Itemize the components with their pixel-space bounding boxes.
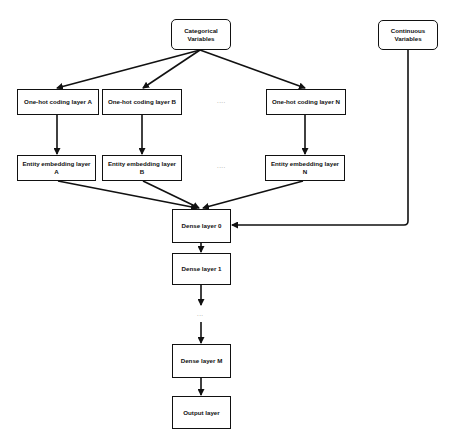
node-label: Dense layer 1 (182, 265, 222, 273)
edge-categorical-onehot-b (143, 50, 200, 88)
edge-continuous-dense-0 (232, 50, 408, 225)
node-label: Variables (394, 35, 421, 42)
node-label: Entity embedding layer N (268, 160, 342, 176)
edge-embed-a-dense-0 (58, 181, 197, 208)
node-onehot-layer-n: One-hot coding layer N (266, 89, 346, 115)
node-dense-layer-1: Dense layer 1 (172, 253, 231, 285)
node-embedding-layer-a: Entity embedding layer A (17, 155, 96, 181)
ellipsis-onehot-row: .... (217, 98, 226, 104)
node-output-layer: Output layer (172, 396, 231, 429)
node-label: Categorical (184, 27, 218, 34)
node-label: Dense layer M (181, 357, 223, 365)
edge-embed-n-dense-0 (203, 181, 303, 208)
ellipsis-embedding-row: .... (217, 163, 226, 169)
node-label: One-hot coding layer N (272, 98, 340, 106)
node-continuous-variables: ContinuousVariables (378, 20, 438, 50)
node-label: Dense layer 0 (182, 222, 222, 230)
node-embedding-layer-b: Entity embedding layer B (102, 155, 182, 181)
node-onehot-layer-b: One-hot coding layer B (102, 89, 182, 115)
node-label: One-hot coding layer A (24, 98, 92, 106)
edge-categorical-onehot-n (200, 50, 305, 88)
ellipsis-dense-stack: ... (197, 311, 204, 317)
node-label: Output layer (183, 409, 219, 417)
node-label: Entity embedding layer A (20, 160, 93, 176)
node-categorical-variables: CategoricalVariables (171, 19, 231, 50)
node-embedding-layer-n: Entity embedding layer N (265, 155, 345, 181)
diagram-canvas: CategoricalVariables ContinuousVariables… (0, 0, 455, 439)
node-onehot-layer-a: One-hot coding layer A (17, 89, 99, 115)
edge-embed-b-dense-0 (143, 181, 199, 208)
node-dense-layer-0: Dense layer 0 (172, 209, 231, 243)
edge-categorical-onehot-a (57, 50, 200, 88)
node-label: Continuous (391, 27, 425, 34)
node-label: Variables (187, 35, 214, 42)
node-label: One-hot coding layer B (108, 98, 176, 106)
node-dense-layer-m: Dense layer M (172, 344, 231, 378)
node-label: Entity embedding layer B (105, 160, 179, 176)
